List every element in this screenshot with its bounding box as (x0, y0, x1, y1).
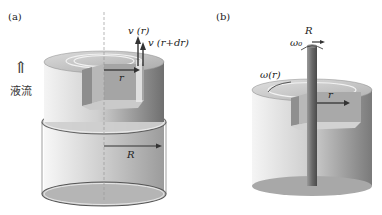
label-v-r-plus-dr: v (r+dr) (148, 38, 189, 48)
rotating-rod-diagram (191, 0, 382, 215)
upper-fluid-cylinder (44, 51, 164, 122)
label-liquid-flow: 液流 (10, 86, 32, 97)
panel-tag-a: (a) (8, 12, 22, 22)
rod-radius-arrow (312, 40, 325, 44)
label-R: R (127, 150, 135, 160)
panel-b-rotating-rod: (b) R ω₀ ω(r) r (191, 0, 382, 215)
panel-a-pipe-flow: (a) v (r) v (r+dr) r R ⇑ 液流 (0, 0, 191, 215)
pipe-flow-diagram (0, 0, 191, 215)
label-r-b: r (328, 90, 333, 100)
label-omega-r: ω(r) (260, 70, 281, 80)
rotating-rod (307, 44, 317, 186)
label-omega-0: ω₀ (290, 38, 302, 48)
label-rod-R: R (305, 26, 313, 36)
panel-tag-b: (b) (216, 12, 230, 22)
label-v-r: v (r) (128, 26, 149, 36)
flow-direction-arrow-icon: ⇑ (14, 60, 27, 76)
label-r: r (119, 73, 124, 83)
